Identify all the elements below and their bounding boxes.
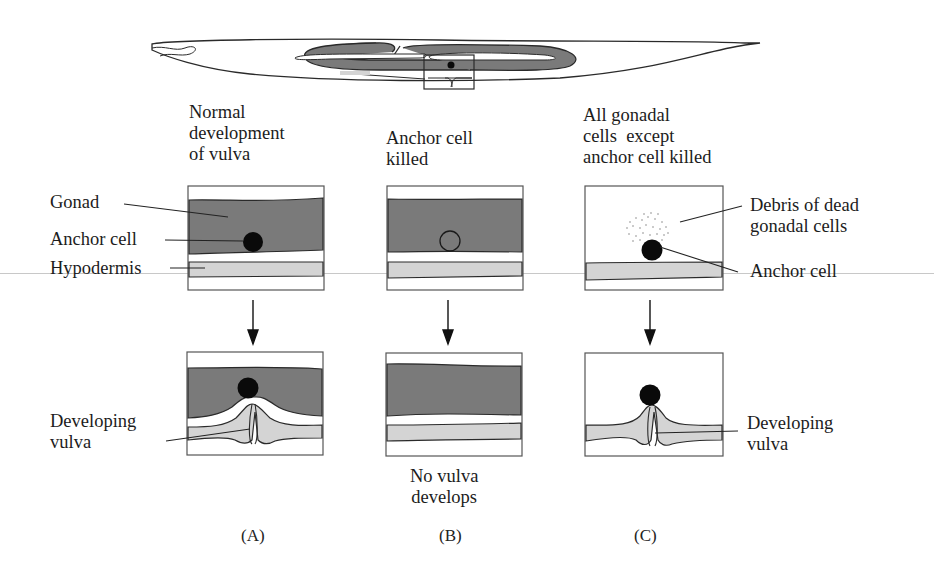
panel-c-top-schematic: [585, 186, 742, 290]
label-gonad: Gonad: [50, 192, 99, 213]
panel-a-top-schematic: [124, 186, 324, 290]
anchor-cell-icon: [243, 232, 263, 252]
panel-b-top-schematic: [387, 186, 523, 290]
panel-a-bottom-schematic: [166, 352, 323, 455]
panel-label-c: (C): [634, 526, 657, 546]
label-developing-vulva-c: Developing vulva: [747, 413, 833, 455]
label-no-vulva: No vulva develops: [410, 466, 478, 508]
panel-c-bottom-schematic: [585, 353, 738, 456]
anchor-cell-icon: [238, 378, 259, 399]
label-hypodermis: Hypodermis: [50, 258, 141, 279]
panel-label-b: (B): [439, 526, 462, 546]
anchor-cell-icon: [640, 385, 661, 406]
column-c-title: All gonadal cells except anchor cell kil…: [583, 105, 711, 168]
panel-label-a: (A): [241, 526, 265, 546]
label-debris: Debris of dead gonadal cells: [750, 195, 859, 237]
worm-overview: [152, 39, 760, 89]
column-b-title: Anchor cell killed: [386, 128, 473, 170]
anchor-cell-icon: [642, 240, 663, 261]
label-anchor-cell-c: Anchor cell: [750, 261, 837, 282]
arrows: [248, 300, 655, 344]
panel-b-bottom-schematic: [386, 353, 522, 456]
label-developing-vulva-a: Developing vulva: [50, 411, 136, 453]
label-anchor-cell-a: Anchor cell: [50, 229, 137, 250]
column-a-title: Normal development of vulva: [189, 102, 285, 165]
